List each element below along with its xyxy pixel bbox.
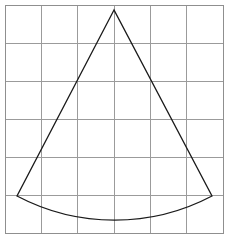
geometry-figure: [0, 0, 229, 240]
figure-container: [0, 0, 229, 240]
